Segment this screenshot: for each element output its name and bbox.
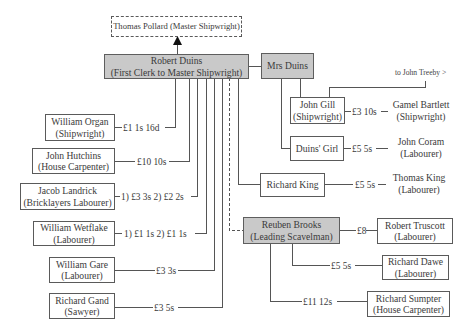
node-richard-gand: Richard Gand (Sawyer) xyxy=(49,293,115,319)
node-name: Robert Duins xyxy=(151,55,202,67)
node-robert-duins: Robert Duins (First Clerk to Master Ship… xyxy=(104,54,249,79)
node-name: John Hutchins xyxy=(46,150,101,162)
node-name: Jacob Landrick xyxy=(38,185,97,197)
node-john-coram: John Coram (Labourer) xyxy=(398,136,445,160)
wage-william-wetflake: 1) £1 1s 2) £1 1s xyxy=(124,229,187,239)
wage-john-hutchins: £10 10s xyxy=(137,157,166,167)
node-robert-truscott: Robert Truscott (Labourer) xyxy=(377,218,453,244)
node-thomas-pollard: Thomas Pollard (Master Shipwright) xyxy=(111,16,242,37)
node-role: (Labourer) xyxy=(398,184,440,196)
wage-richard-dawe: £5 5s xyxy=(331,261,351,271)
node-thomas-king: Thomas King (Labourer) xyxy=(393,172,446,196)
node-john-hutchins: John Hutchins (House Carpenter) xyxy=(32,148,115,174)
node-duins-girl: Duins' Girl xyxy=(290,136,344,161)
node-role: (Shipwright) xyxy=(293,111,342,123)
treeby-note: to John Treeby > xyxy=(395,68,446,77)
node-role: (Labourer) xyxy=(395,268,437,280)
wage-richard-sumpter: £11 12s xyxy=(303,297,332,307)
node-william-wetflake: William Wetflake (Labourer) xyxy=(33,221,115,246)
node-name: Gamel Bartlett xyxy=(393,99,450,111)
node-name: Thomas Pollard (Master Shipwright) xyxy=(113,21,240,33)
node-role: (First Clerk to Master Shipwright) xyxy=(111,67,243,79)
node-richard-dawe: Richard Dawe (Labourer) xyxy=(382,255,449,280)
node-role: (Shipwright) xyxy=(396,111,445,123)
wage-william-organ: £1 1s 16d xyxy=(123,123,159,133)
node-william-organ: William Organ (Shipwright) xyxy=(45,114,115,141)
node-role: (Bricklayers Labourer) xyxy=(23,197,111,209)
node-name: William Gare xyxy=(56,259,108,271)
wage-john-coram: £5 5s xyxy=(352,144,372,154)
node-jacob-landrick: Jacob Landrick (Bricklayers Labourer) xyxy=(20,183,115,210)
node-name: Richard Gand xyxy=(55,295,109,307)
node-name: Richard Dawe xyxy=(388,256,443,268)
node-mrs-duins: Mrs Duins xyxy=(261,53,314,79)
node-role: (House Carpenter) xyxy=(373,304,444,316)
node-role: (Leading Scavelman) xyxy=(250,231,332,243)
node-role: (Labourer) xyxy=(394,231,436,243)
node-gamel-bartlett: Gamel Bartlett (Shipwright) xyxy=(393,99,450,123)
node-reuben-brooks: Reuben Brooks (Leading Scavelman) xyxy=(243,217,340,244)
wage-gamel-bartlett: £3 10s xyxy=(352,107,377,117)
node-name: Robert Truscott xyxy=(385,220,445,232)
patronage-diagram: Thomas Pollard (Master Shipwright) Rober… xyxy=(0,0,473,334)
node-john-gill: John Gill (Shipwright) xyxy=(290,97,345,124)
node-name: Thomas King xyxy=(393,172,446,184)
wage-jacob-landrick: 1) £3 3s 2) £2 2s xyxy=(121,192,184,202)
node-role: (Labourer) xyxy=(53,234,95,246)
node-richard-king: Richard King xyxy=(260,173,325,197)
wage-william-gare: £3 3s xyxy=(156,266,176,276)
node-name: Richard Sumpter xyxy=(376,293,441,305)
wage-thomas-king: £5 5s xyxy=(355,180,375,190)
node-role: (Shipwright) xyxy=(55,128,104,140)
node-role: (Labourer) xyxy=(400,148,442,160)
wage-robert-truscott: £8 xyxy=(357,226,366,236)
node-name: William Organ xyxy=(51,116,108,128)
node-name: Richard King xyxy=(267,179,319,191)
node-role: (House Carpenter) xyxy=(38,161,109,173)
wage-richard-gand: £3 5s xyxy=(154,303,174,313)
node-role: (Labourer) xyxy=(61,270,103,282)
node-name: John Coram xyxy=(398,136,445,148)
node-name: Duins' Girl xyxy=(296,143,339,155)
node-william-gare: William Gare (Labourer) xyxy=(49,257,115,283)
node-name: John Gill xyxy=(300,99,335,111)
node-name: Reuben Brooks xyxy=(262,219,321,231)
node-role: (Sawyer) xyxy=(64,306,99,318)
node-richard-sumpter: Richard Sumpter (House Carpenter) xyxy=(367,291,450,317)
node-name: William Wetflake xyxy=(40,222,108,234)
node-name: Mrs Duins xyxy=(267,60,308,72)
